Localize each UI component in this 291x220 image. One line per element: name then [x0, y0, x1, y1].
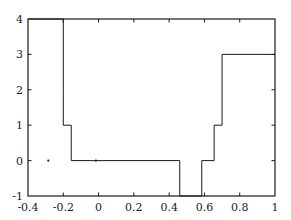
y-tick-label-2: 1: [16, 119, 23, 132]
y-tick-label-0: -1: [12, 190, 23, 203]
y-tick-label-1: 0: [16, 155, 23, 168]
chart-root: -0.4-0.200.20.40.60.81 -101234: [0, 0, 291, 220]
x-tick-label-7: 1: [272, 201, 279, 214]
x-tick-label-1: -0.2: [53, 201, 74, 214]
x-tick-label-4: 0.4: [160, 201, 178, 214]
y-tick-label-5: 4: [16, 13, 23, 26]
y-tick-label-3: 2: [16, 84, 23, 97]
y-tick-label-4: 3: [16, 48, 23, 61]
data-point-marker-0: [47, 160, 49, 162]
x-tick-label-3: 0.2: [125, 201, 143, 214]
chart-background: [0, 0, 291, 220]
step-plot: -0.4-0.200.20.40.60.81 -101234: [0, 0, 291, 220]
x-tick-label-6: 0.8: [231, 201, 249, 214]
x-tick-label-2: 0: [95, 201, 102, 214]
x-tick-label-5: 0.6: [196, 201, 214, 214]
